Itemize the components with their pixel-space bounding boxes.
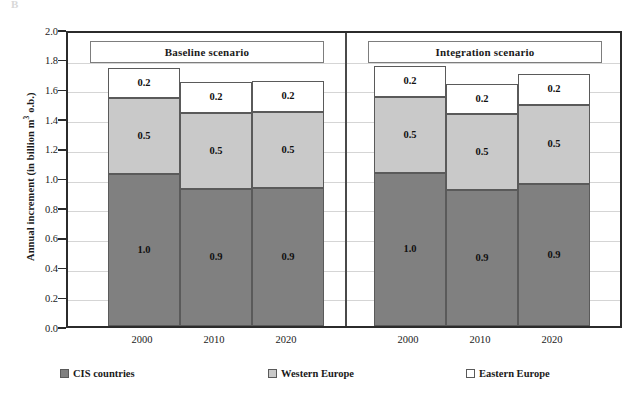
x-axis-tick-label: 2020 [251, 334, 321, 345]
legend-item[interactable]: Eastern Europe [466, 368, 550, 379]
legend-swatch [268, 369, 277, 378]
x-axis-tick-label: 2000 [107, 334, 177, 345]
bar-segment-label: 0.9 [547, 250, 560, 261]
bar-segment[interactable]: 1.0 [374, 173, 446, 326]
scenario-title-label: Integration scenario [435, 46, 534, 58]
y-axis-tick-label: 1.0 [18, 174, 58, 185]
y-axis-tick-mark [58, 149, 66, 151]
stacked-bar[interactable]: 0.90.50.2 [518, 74, 590, 326]
bar-segment[interactable]: 0.9 [180, 189, 252, 326]
stacked-bar[interactable]: 1.00.50.2 [108, 68, 180, 326]
bar-segment[interactable]: 0.9 [518, 184, 590, 326]
x-axis-tick-label: 2010 [445, 334, 515, 345]
bar-segment-label: 0.9 [209, 252, 222, 263]
y-axis-tick-mark [58, 298, 66, 300]
y-axis-tick-label: 1.8 [18, 55, 58, 66]
bar-segment-label: 0.5 [475, 147, 488, 158]
legend-swatch [466, 369, 475, 378]
y-axis-tick-label: 1.4 [18, 115, 58, 126]
bar-segment-label: 0.2 [475, 94, 488, 105]
stacked-bar[interactable]: 0.90.50.2 [446, 84, 518, 326]
y-axis-tick-mark [58, 30, 66, 32]
bar-segment[interactable]: 0.9 [446, 190, 518, 326]
bar-segment-label: 0.9 [281, 252, 294, 263]
stacked-bar[interactable]: 1.00.50.2 [374, 66, 446, 326]
bar-segment-label: 0.2 [403, 76, 416, 87]
bar-segment[interactable]: 0.2 [446, 84, 518, 114]
y-axis-tick-label: 0.4 [18, 263, 58, 274]
bar-segment[interactable]: 0.2 [180, 82, 252, 112]
bar-segment-label: 0.5 [281, 145, 294, 156]
bar-segment-label: 0.2 [137, 78, 150, 89]
y-axis-tick-mark [58, 327, 66, 329]
legend-item[interactable]: CIS countries [60, 368, 135, 379]
legend-label: Eastern Europe [479, 368, 550, 379]
y-axis-tick-label: 0.0 [18, 323, 58, 334]
bar-segment-label: 1.0 [137, 245, 150, 256]
x-axis-tick-label: 2000 [373, 334, 443, 345]
bar-segment[interactable]: 0.5 [446, 114, 518, 190]
y-axis-tick-mark [58, 179, 66, 181]
y-axis-tick-mark [58, 90, 66, 92]
y-axis-tick-label: 0.6 [18, 233, 58, 244]
bar-segment[interactable]: 0.5 [518, 105, 590, 184]
bar-segment-label: 0.2 [547, 84, 560, 95]
y-axis-tick-mark [58, 60, 66, 62]
plot-inner: 1.00.50.20.90.50.20.90.50.21.00.50.20.90… [68, 33, 620, 326]
y-axis-tick-mark [58, 119, 66, 121]
stacked-bar[interactable]: 0.90.50.2 [180, 82, 252, 326]
y-axis-tick-label: 0.8 [18, 204, 58, 215]
bar-segment[interactable]: 0.5 [108, 98, 180, 174]
bar-segment-label: 1.0 [403, 244, 416, 255]
bar-segment[interactable]: 1.0 [108, 174, 180, 326]
bar-segment[interactable]: 0.9 [252, 188, 324, 326]
scenario-title-box: Integration scenario [368, 41, 602, 63]
bar-segment-label: 0.2 [209, 92, 222, 103]
y-axis-tick-label: 2.0 [18, 26, 58, 37]
bar-segment[interactable]: 0.2 [108, 68, 180, 98]
bar-segment-label: 0.5 [137, 131, 150, 142]
panel-divider [345, 33, 347, 326]
bar-segment-label: 0.5 [209, 146, 222, 157]
y-axis-tick-label: 1.6 [18, 85, 58, 96]
bar-segment-label: 0.5 [547, 139, 560, 150]
bar-segment[interactable]: 0.5 [180, 113, 252, 189]
bar-segment[interactable]: 0.2 [518, 74, 590, 106]
bar-segment[interactable]: 0.2 [374, 66, 446, 97]
chart-figure: B Annual increment (in billion m3 o.b.) … [0, 0, 632, 407]
legend-item[interactable]: Western Europe [268, 368, 354, 379]
x-axis-tick-label: 2010 [179, 334, 249, 345]
stacked-bar[interactable]: 0.90.50.2 [252, 81, 324, 326]
legend-label: CIS countries [73, 368, 135, 379]
bar-segment[interactable]: 0.5 [374, 97, 446, 173]
y-axis-title-tail: o.b.) [25, 92, 36, 115]
y-axis-tick-mark [58, 268, 66, 270]
scenario-title-label: Baseline scenario [165, 46, 249, 58]
scenario-title-box: Baseline scenario [90, 41, 324, 63]
scan-artifact: B [11, 0, 21, 9]
bar-segment-label: 0.5 [403, 130, 416, 141]
y-axis-tick-mark [58, 238, 66, 240]
plot-area: 1.00.50.20.90.50.20.90.50.21.00.50.20.90… [66, 31, 622, 328]
x-axis-tick-label: 2020 [517, 334, 587, 345]
legend-swatch [60, 369, 69, 378]
chart-legend: CIS countriesWestern EuropeEastern Europ… [0, 368, 632, 388]
bar-segment-label: 0.2 [281, 91, 294, 102]
bar-segment[interactable]: 0.5 [252, 112, 324, 189]
legend-label: Western Europe [281, 368, 354, 379]
y-axis-tick-mark [58, 208, 66, 210]
bar-segment-label: 0.9 [475, 253, 488, 264]
bar-segment[interactable]: 0.2 [252, 81, 324, 112]
y-axis-tick-label: 1.2 [18, 144, 58, 155]
y-axis-tick-label: 0.2 [18, 293, 58, 304]
